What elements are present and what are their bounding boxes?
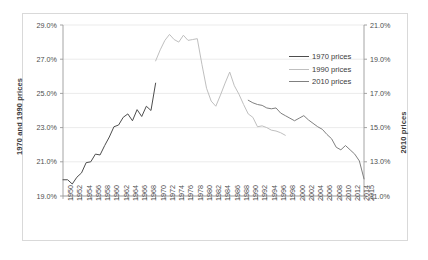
y-axis-right-tick: 19.0% <box>370 55 406 64</box>
x-axis-tick: 1952 <box>75 185 84 201</box>
legend-swatch-line <box>289 69 309 70</box>
x-axis-tick: 1974 <box>177 185 186 201</box>
x-axis-tick: 1956 <box>94 185 103 201</box>
x-axis-tick: 1982 <box>214 185 223 201</box>
y-axis-left-tick: 25.0% <box>21 89 57 98</box>
x-axis-tick: 2008 <box>335 185 344 201</box>
y-axis-left-tick: 21.0% <box>21 157 57 166</box>
y-axis-right-tick: 15.0% <box>370 123 406 132</box>
x-axis-tick: 1990 <box>251 185 260 201</box>
x-axis-tick: 1972 <box>168 185 177 201</box>
y-axis-left-tick: 19.0% <box>21 192 57 201</box>
legend-item-label: 1990 prices <box>312 65 351 74</box>
x-axis-tick: 1962 <box>122 185 131 201</box>
x-axis-tick: 1964 <box>131 185 140 201</box>
x-axis-tick: 1978 <box>196 185 205 201</box>
x-axis-tick: 1950 <box>66 185 75 201</box>
legend-swatch-line <box>289 56 309 57</box>
x-axis-tick: 1976 <box>186 185 195 201</box>
x-axis-tick: 1954 <box>85 185 94 201</box>
x-axis-tick: 1992 <box>260 185 269 201</box>
y-axis-left-tick: 27.0% <box>21 55 57 64</box>
series-line-2 <box>156 34 286 135</box>
legend-swatch-line <box>289 81 309 82</box>
y-axis-left-tick: 29.0% <box>21 21 57 30</box>
x-axis-tick: 1998 <box>288 185 297 201</box>
x-axis-tick: 2015 <box>367 185 376 201</box>
x-axis-tick: 1988 <box>242 185 251 201</box>
x-axis-tick: 1966 <box>140 185 149 201</box>
x-axis-tick: 1980 <box>205 185 214 201</box>
y-axis-left-tick: 23.0% <box>21 123 57 132</box>
x-axis-tick: 1994 <box>270 185 279 201</box>
series-line-1 <box>63 83 156 184</box>
x-axis-tick: 1960 <box>112 185 121 201</box>
x-axis-tick: 1968 <box>149 185 158 201</box>
x-axis-tick: 2012 <box>353 185 362 201</box>
y-axis-right-tick: 13.0% <box>370 157 406 166</box>
y-axis-right-tick: 21.0% <box>370 21 406 30</box>
x-axis-tick: 2002 <box>307 185 316 201</box>
x-axis-tick: 2000 <box>298 185 307 201</box>
chart-figure: 1970 and 1990 prices 2010 prices 19.0%21… <box>0 0 428 260</box>
y-axis-right-tick: 17.0% <box>370 89 406 98</box>
legend-item-label: 1970 prices <box>312 52 351 61</box>
x-axis-tick: 1958 <box>103 185 112 201</box>
series-line-3 <box>248 100 364 179</box>
x-axis-tick: 2006 <box>325 185 334 201</box>
x-axis-tick: 1984 <box>223 185 232 201</box>
x-axis-tick: 2004 <box>316 185 325 201</box>
x-axis-tick: 2010 <box>344 185 353 201</box>
legend-item-label: 2010 prices <box>312 77 351 86</box>
x-axis-tick: 1996 <box>279 185 288 201</box>
plot-area <box>0 0 428 260</box>
x-axis-tick: 1970 <box>159 185 168 201</box>
x-axis-tick: 1986 <box>233 185 242 201</box>
